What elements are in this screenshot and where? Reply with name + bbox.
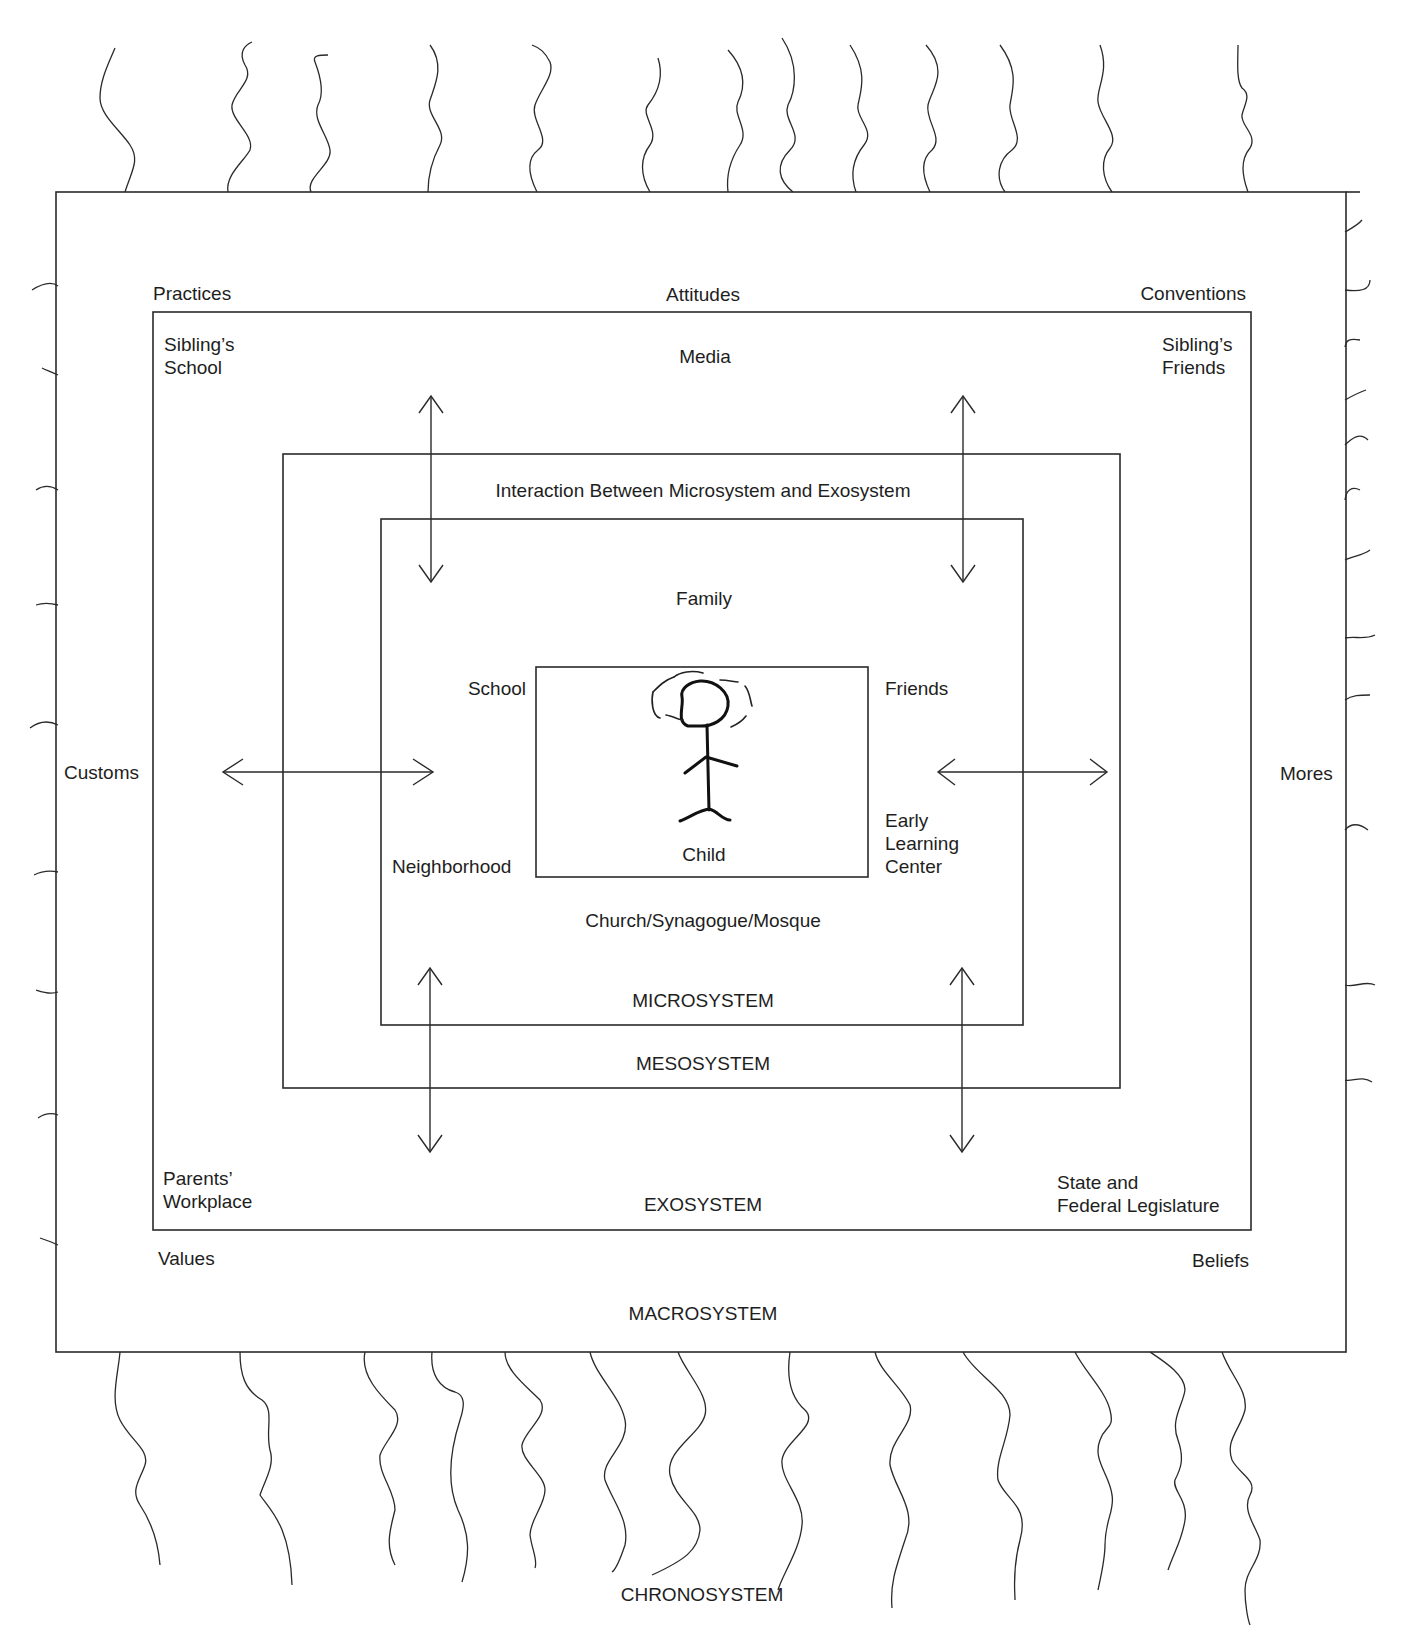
stick-figure-icon: [652, 672, 752, 821]
arrow-bottom-left-vertical: [418, 968, 442, 1152]
exosystem-item-media: Media: [679, 345, 731, 368]
macrosystem-label: MACROSYSTEM: [629, 1302, 778, 1325]
siblings-friends-line2: Friends: [1162, 356, 1232, 379]
siblings-friends-line1: Sibling’s: [1162, 333, 1232, 356]
exosystem-box: [153, 312, 1251, 1230]
macrosystem-item-practices: Practices: [153, 282, 231, 305]
macrosystem-item-attitudes: Attitudes: [666, 283, 740, 306]
siblings-school-line2: School: [164, 356, 234, 379]
chronosystem-top-squiggles: [100, 38, 1252, 192]
legislature-line1: State and: [1057, 1171, 1220, 1194]
exosystem-item-siblings-friends: Sibling’s Friends: [1162, 333, 1232, 379]
diagram-graphics: [0, 0, 1401, 1652]
arrow-bottom-right-vertical: [950, 968, 974, 1152]
macrosystem-item-conventions: Conventions: [1140, 282, 1246, 305]
mesosystem-label: MESOSYSTEM: [636, 1052, 770, 1075]
early-learning-line1: Early: [885, 809, 959, 832]
legislature-line2: Federal Legislature: [1057, 1194, 1220, 1217]
arrow-top-left-vertical: [419, 396, 443, 582]
chronosystem-label: CHRONOSYSTEM: [621, 1583, 784, 1606]
parents-workplace-line1: Parents’: [163, 1167, 252, 1190]
chronosystem-left-ticks: [30, 283, 58, 1245]
arrow-left-horizontal: [223, 759, 433, 785]
microsystem-item-school: School: [468, 677, 526, 700]
microsystem-item-early-learning-center: Early Learning Center: [885, 809, 959, 878]
macrosystem-item-customs: Customs: [64, 761, 139, 784]
microsystem-item-family: Family: [676, 587, 732, 610]
exosystem-item-legislature: State and Federal Legislature: [1057, 1171, 1220, 1217]
early-learning-line2: Learning: [885, 832, 959, 855]
exosystem-item-siblings-school: Sibling’s School: [164, 333, 234, 379]
mesosystem-description: Interaction Between Microsystem and Exos…: [495, 479, 910, 502]
macrosystem-item-values: Values: [158, 1247, 215, 1270]
ecological-systems-diagram: Practices Attitudes Conventions Customs …: [0, 0, 1401, 1652]
arrow-top-right-vertical: [951, 396, 975, 582]
child-label: Child: [682, 843, 725, 866]
microsystem-item-friends: Friends: [885, 677, 948, 700]
exosystem-item-parents-workplace: Parents’ Workplace: [163, 1167, 252, 1213]
exosystem-label: EXOSYSTEM: [644, 1193, 762, 1216]
early-learning-line3: Center: [885, 855, 959, 878]
macrosystem-item-mores: Mores: [1280, 762, 1333, 785]
parents-workplace-line2: Workplace: [163, 1190, 252, 1213]
chronosystem-right-ticks: [1345, 220, 1375, 1082]
macrosystem-item-beliefs: Beliefs: [1192, 1249, 1249, 1272]
microsystem-item-neighborhood: Neighborhood: [392, 855, 511, 878]
siblings-school-line1: Sibling’s: [164, 333, 234, 356]
microsystem-label: MICROSYSTEM: [632, 989, 773, 1012]
microsystem-item-church: Church/Synagogue/Mosque: [585, 909, 821, 932]
